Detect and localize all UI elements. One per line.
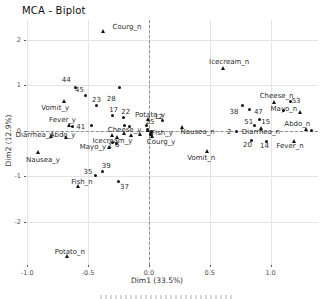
point-label: 17: [109, 107, 118, 114]
point-label: Courg_y: [147, 138, 175, 145]
x-tick-label: 1.0: [265, 269, 275, 277]
point-label: Cheese_n: [260, 92, 294, 99]
x-tick-label: -0.5: [82, 269, 95, 277]
data-point-dot: [111, 114, 114, 117]
data-point-triangle: [149, 132, 153, 136]
gridline-vertical: [27, 20, 28, 265]
data-point-triangle: [221, 66, 225, 70]
data-point-dot: [248, 108, 251, 111]
point-label: 35: [84, 168, 93, 175]
point-label: 39: [102, 162, 111, 169]
y-tick-mark: [24, 222, 26, 223]
y-tick-label: -2: [15, 218, 21, 226]
gridline-vertical: [271, 20, 272, 265]
gridline-horizontal: [26, 222, 318, 223]
y-tick-label: -1: [15, 172, 21, 180]
data-point-triangle: [107, 145, 111, 149]
data-point-dot: [101, 170, 104, 173]
gridline-horizontal: [26, 176, 318, 177]
point-label: 22: [121, 108, 130, 115]
data-point-triangle: [129, 133, 133, 137]
x-tick-mark: [88, 265, 89, 267]
data-point-triangle: [110, 133, 114, 137]
y-tick-label: 1: [17, 81, 21, 89]
x-tick-label: 0.5: [205, 269, 215, 277]
data-point-triangle: [304, 127, 308, 131]
point-label: Diarrhea_n: [242, 128, 280, 135]
data-point-triangle: [298, 110, 302, 114]
point-label: 51: [244, 118, 253, 125]
point-label: Nausea_y: [26, 157, 60, 164]
data-point-triangle: [272, 100, 276, 104]
point-label: Abdo_y: [50, 132, 76, 139]
point-label: 41: [76, 123, 85, 130]
gridline-horizontal: [26, 85, 318, 86]
point-label: 37: [120, 183, 129, 190]
y-axis-title: Dim2 (12.9%): [4, 109, 13, 173]
point-label: Diarrhea_y: [16, 132, 54, 139]
y-tick-mark: [24, 176, 26, 177]
point-label: Courg_n: [113, 23, 142, 30]
x-axis-title: Dim1 (33.5%): [131, 276, 183, 285]
mca-biplot-screenshot: MCA - Biplot -1.0-0.50.00.51.0210-1-2444…: [0, 0, 323, 299]
point-label: Potato_y: [135, 112, 165, 119]
x-tick-mark: [210, 265, 211, 267]
data-point-dot: [95, 104, 98, 107]
data-point-dot: [241, 104, 244, 107]
point-label: Potato_n: [55, 248, 85, 255]
point-label: Fever_y: [49, 117, 76, 124]
point-label: Abdo_n: [284, 121, 310, 128]
point-label: 44: [62, 77, 71, 84]
point-label: Vomit_y: [41, 104, 69, 111]
point-label: Icecream_n: [209, 58, 249, 65]
point-label: 2: [227, 128, 231, 135]
x-tick-mark: [27, 265, 28, 267]
clipped-text-fragment: [100, 295, 235, 299]
point-label: Fish_n: [71, 178, 92, 185]
point-label: Mayo_y: [80, 143, 106, 150]
x-tick-mark: [149, 265, 150, 267]
plot-panel: -1.0-0.50.00.51.0210-1-24445232817224125…: [0, 0, 323, 299]
x-tick-label: -1.0: [21, 269, 34, 277]
point-label: 15: [261, 118, 270, 125]
data-point-dot: [84, 94, 87, 97]
point-label: 38: [230, 108, 239, 115]
point-label: Nausea_n: [180, 128, 214, 135]
y-tick-mark: [24, 85, 26, 86]
point-label: 20: [243, 142, 252, 149]
data-point-triangle: [138, 132, 142, 136]
point-label: 47: [254, 108, 263, 115]
data-point-dot: [122, 116, 125, 119]
point-label: 23: [92, 97, 101, 104]
y-tick-mark: [24, 40, 26, 41]
data-point-dot: [235, 130, 238, 133]
data-point-triangle: [62, 99, 66, 103]
point-label: Vomit_n: [187, 154, 215, 161]
data-point-triangle: [101, 29, 105, 33]
gridline-horizontal: [26, 40, 318, 41]
data-point-triangle: [36, 150, 40, 154]
point-label: 14: [260, 142, 269, 149]
x-tick-mark: [271, 265, 272, 267]
point-label: Fever_n: [276, 142, 303, 149]
data-point-dot: [118, 86, 121, 89]
data-point-dot: [90, 124, 93, 127]
point-label: 45: [75, 87, 84, 94]
point-label: 28: [107, 96, 116, 103]
data-point-triangle: [205, 149, 209, 153]
y-tick-label: 2: [17, 36, 21, 44]
data-point-dot: [253, 124, 256, 127]
point-label: Fish_y: [152, 129, 173, 136]
data-point-triangle: [67, 123, 71, 127]
data-point-dot: [123, 124, 126, 127]
